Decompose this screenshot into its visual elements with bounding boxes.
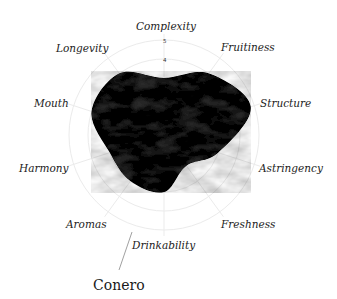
data-polygon (92, 72, 251, 193)
radar-chart (0, 0, 337, 299)
axis-label-structure: Structure (260, 97, 311, 109)
axis-label-aromas: Aromas (66, 218, 107, 230)
tick-label-4: 4 (163, 57, 167, 63)
axis-label-astringency: Astringency (259, 162, 323, 174)
axis-label-drinkability: Drinkability (132, 239, 195, 251)
axis-label-longevity: Longevity (56, 42, 108, 54)
axis-label-fruitiness: Fruitiness (221, 41, 275, 53)
tick-label-5: 5 (163, 38, 167, 44)
series-title: Conero (93, 277, 145, 293)
axis-label-complexity: Complexity (136, 20, 196, 32)
axis-label-freshness: Freshness (221, 218, 275, 230)
axis-label-harmony: Harmony (19, 162, 68, 174)
callout-line (119, 232, 132, 270)
axis-label-mouth: Mouth (34, 97, 69, 109)
